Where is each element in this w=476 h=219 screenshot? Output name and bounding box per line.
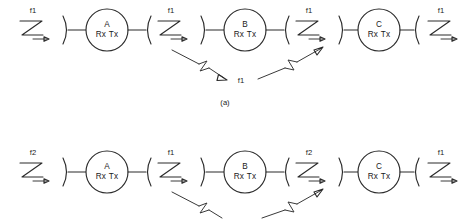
- node-a-label: A: [104, 162, 110, 171]
- interference-in-seg2: [209, 210, 222, 218]
- interference-out-arrowhead: [314, 47, 323, 55]
- tx-antenna-c: [416, 158, 420, 186]
- rx-antenna-a: [63, 16, 67, 44]
- interference-out-arrowhead: [314, 189, 323, 197]
- rx-antenna-b: [201, 16, 205, 44]
- tx-antenna-a: [148, 158, 152, 186]
- rx-antenna-c: [339, 158, 343, 186]
- rx-antenna-c: [339, 16, 343, 44]
- freq-label-input-a: f1: [30, 6, 36, 15]
- tx-antenna-a: [148, 16, 152, 44]
- wave-glyph: [20, 163, 43, 177]
- node-b: B Rx Tx: [224, 9, 266, 51]
- interference-in-arrowhead: [217, 75, 227, 81]
- interference-out-seg2: [297, 191, 320, 204]
- wave-glyph: [428, 163, 451, 177]
- freq-label-b-to-c: f2: [306, 148, 312, 157]
- node-b-label: B: [242, 20, 248, 29]
- freq-label-interference-a: f1: [238, 76, 244, 85]
- interference-in-seg1: [172, 50, 199, 64]
- rx-antenna-b: [201, 158, 205, 186]
- node-a: A Rx Tx: [86, 9, 128, 51]
- hop-b-to-c: f1: [296, 6, 325, 41]
- tx-antenna-b: [286, 16, 290, 44]
- interference-out-zigzag: [285, 202, 297, 212]
- figure-canvas: f1 A Rx Tx f1: [0, 0, 476, 219]
- wave-glyph: [428, 21, 451, 35]
- caption-a: (a): [220, 98, 230, 107]
- rx-antenna-a: [63, 158, 67, 186]
- node-b: B Rx Tx: [224, 151, 266, 193]
- hop-a-to-b: f1: [158, 148, 187, 183]
- freq-label-input-b: f2: [30, 148, 36, 157]
- freq-label-b-to-c: f1: [306, 6, 312, 15]
- wave-glyph: [20, 21, 43, 35]
- node-c-radio: Rx Tx: [368, 172, 391, 181]
- freq-label-output-a: f1: [438, 6, 444, 15]
- node-a-radio: Rx Tx: [96, 30, 119, 39]
- diagram-b: f2 A Rx Tx f1: [20, 148, 457, 218]
- node-a-radio: Rx Tx: [96, 172, 119, 181]
- diagram-a: f1 A Rx Tx f1: [20, 6, 457, 107]
- node-b-radio: Rx Tx: [234, 30, 257, 39]
- input-signal-a: f1: [20, 6, 49, 41]
- wave-glyph: [158, 21, 181, 35]
- wave-glyph: [158, 163, 181, 177]
- output-signal-b: f1: [428, 148, 457, 183]
- tx-antenna-b: [286, 158, 290, 186]
- interference-out-seg2: [297, 49, 320, 62]
- node-b-label: B: [242, 162, 248, 171]
- node-c: C Rx Tx: [358, 151, 400, 193]
- wave-glyph: [296, 163, 319, 177]
- freq-label-a-to-b: f1: [168, 6, 174, 15]
- tx-antenna-c: [416, 16, 420, 44]
- node-a-label: A: [104, 20, 110, 29]
- interference-in-zigzag: [199, 61, 209, 71]
- freq-label-output-b: f1: [438, 148, 444, 157]
- node-c-label: C: [376, 162, 382, 171]
- node-b-radio: Rx Tx: [234, 172, 257, 181]
- node-c-label: C: [376, 20, 382, 29]
- interference-in-seg1: [172, 192, 199, 206]
- hop-a-to-b: f1: [158, 6, 187, 41]
- interference-out-seg1: [262, 210, 285, 218]
- node-c-radio: Rx Tx: [368, 30, 391, 39]
- interference-out-seg1: [258, 68, 285, 79]
- interference-path-a: f1: [172, 47, 323, 85]
- hop-b-to-c: f2: [296, 148, 325, 183]
- input-signal-b: f2: [20, 148, 49, 183]
- node-a: A Rx Tx: [86, 151, 128, 193]
- relay-chain-figure: f1 A Rx Tx f1: [0, 0, 476, 219]
- freq-label-a-to-b: f1: [168, 148, 174, 157]
- node-c: C Rx Tx: [358, 9, 400, 51]
- interference-out-zigzag: [285, 60, 297, 70]
- output-signal-a: f1: [428, 6, 457, 41]
- interference-in-zigzag: [199, 203, 209, 213]
- wave-glyph: [296, 21, 319, 35]
